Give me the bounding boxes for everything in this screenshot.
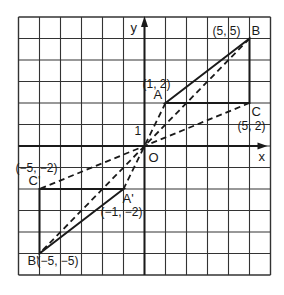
- point-label: C': [29, 173, 41, 188]
- point-label: A': [123, 191, 134, 206]
- unit-tick-label: 1: [135, 124, 142, 138]
- point-coordinate-label: (−5, −5): [37, 254, 79, 268]
- origin-label: O: [149, 150, 159, 165]
- y-axis-label: y: [131, 20, 138, 35]
- x-axis-label: x: [259, 149, 266, 164]
- point-coordinate-label: (−1, −2): [101, 205, 143, 219]
- coordinate-plane-diagram: x y O 1 A(1, 2)B(5, 5)C(5, 2)A'(−1, −2)B…: [0, 0, 284, 295]
- point-coordinate-label: (5, 2): [238, 119, 266, 133]
- point-label: B: [252, 23, 261, 38]
- point-coordinate-label: (1, 2): [143, 77, 171, 91]
- point-coordinate-label: (5, 5): [213, 24, 241, 38]
- axes: x y O 1: [19, 16, 268, 275]
- point-label: C: [252, 104, 261, 119]
- point-coordinate-label: (−5, −2): [16, 161, 58, 175]
